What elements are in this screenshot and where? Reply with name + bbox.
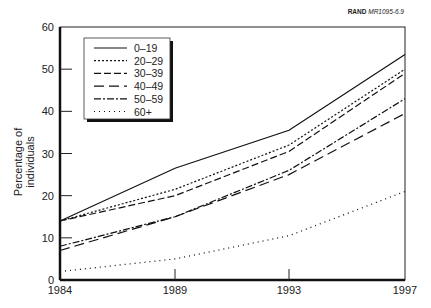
legend-label: 20–29 bbox=[134, 55, 163, 67]
series-line bbox=[60, 191, 405, 271]
x-tick-label: 1989 bbox=[163, 284, 187, 296]
y-tick-label: 10 bbox=[42, 232, 54, 244]
legend-label: 40–49 bbox=[134, 80, 163, 92]
legend-label: 60+ bbox=[134, 106, 152, 118]
x-tick-label: 1997 bbox=[393, 284, 417, 296]
x-tick-label: 1984 bbox=[48, 284, 72, 296]
line-chart: 010203040506019841989199319970–1920–2930… bbox=[0, 0, 431, 308]
y-tick-label: 30 bbox=[42, 148, 54, 160]
x-tick-label: 1993 bbox=[277, 284, 301, 296]
y-tick-label: 40 bbox=[42, 105, 54, 117]
legend-label: 0–19 bbox=[134, 42, 158, 54]
y-tick-label: 60 bbox=[42, 21, 54, 33]
series-line bbox=[60, 113, 405, 250]
legend-label: 50–59 bbox=[134, 93, 163, 105]
legend-label: 30–39 bbox=[134, 67, 163, 79]
y-tick-label: 50 bbox=[42, 63, 54, 75]
y-tick-label: 20 bbox=[42, 190, 54, 202]
